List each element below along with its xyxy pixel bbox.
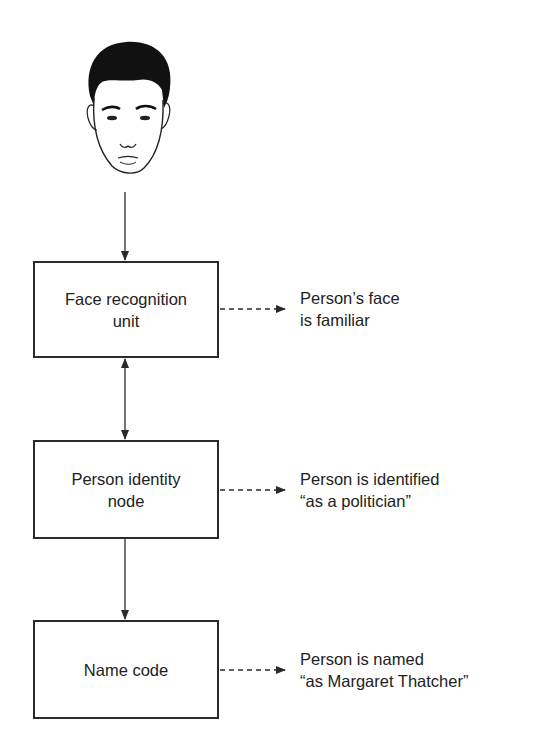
node-face-recognition-unit: Face recognition unit	[33, 261, 219, 358]
output-label-identified-politician: Person is identified “as a politician”	[300, 468, 439, 512]
node-label-line: Name code	[84, 659, 168, 681]
output-line: Person is identified	[300, 468, 439, 490]
output-label-named-thatcher: Person is named “as Margaret Thatcher”	[300, 648, 468, 692]
node-label-line: node	[71, 490, 180, 512]
node-name-code: Name code	[33, 620, 219, 719]
output-line: “as Margaret Thatcher”	[300, 670, 468, 692]
output-line: is familiar	[300, 309, 400, 331]
output-line: Person is named	[300, 648, 468, 670]
output-line: “as a politician”	[300, 490, 439, 512]
node-label-line: unit	[65, 310, 187, 332]
node-label-line: Person identity	[71, 468, 180, 490]
node-person-identity-node: Person identity node	[33, 440, 219, 539]
node-label-line: Face recognition	[65, 288, 187, 310]
output-label-face-familiar: Person’s face is familiar	[300, 287, 400, 331]
output-line: Person’s face	[300, 287, 400, 309]
